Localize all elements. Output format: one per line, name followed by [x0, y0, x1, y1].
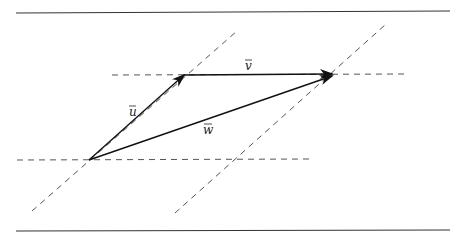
bottom-rule	[16, 230, 450, 231]
label-w: w	[203, 123, 214, 137]
label-u: u	[129, 105, 137, 119]
vector-w	[89, 76, 332, 160]
label-v: v	[245, 59, 252, 73]
svg-text:v: v	[245, 59, 252, 73]
svg-text:w: w	[203, 123, 214, 137]
vector-diagram: u v w	[0, 0, 450, 241]
diagram-svg: u v w	[0, 0, 450, 241]
vector-v	[184, 74, 332, 75]
left-diagonal-dashed-line	[32, 31, 237, 211]
svg-text:u: u	[129, 105, 137, 119]
lower-horizontal-dashed-line	[17, 159, 312, 160]
top-rule	[16, 11, 450, 13]
